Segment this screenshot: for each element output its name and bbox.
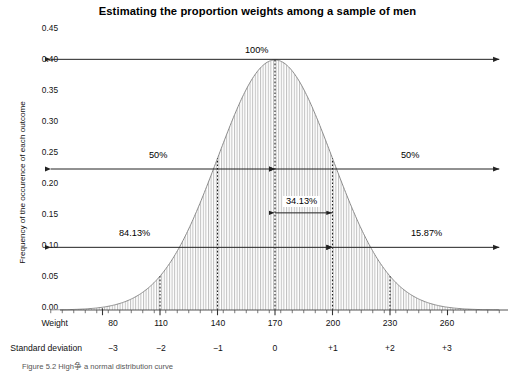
- x-tick-weight: 230: [370, 318, 410, 329]
- x-axis-row-label-weight: Weight: [8, 318, 68, 329]
- x-tick-sd: +1: [313, 343, 353, 354]
- annotation-label-100: 100%: [242, 45, 272, 56]
- annotation-label-8413: 84.13%: [116, 228, 153, 239]
- figure-caption: Figure 5.2 High争 a normal distribution c…: [22, 360, 173, 371]
- x-tick-sd: −1: [198, 343, 238, 354]
- annotation-label-3413: 34.13%: [283, 196, 320, 207]
- x-tick-weight: 170: [255, 318, 295, 329]
- x-tick-sd: −2: [141, 343, 181, 354]
- annotation-label-50-right: 50%: [398, 150, 422, 161]
- x-tick-sd: 0: [255, 343, 295, 354]
- x-tick-weight: 140: [198, 318, 238, 329]
- x-tick-sd: +3: [427, 343, 467, 354]
- x-tick-sd: −3: [93, 343, 133, 354]
- x-tick-weight: 200: [313, 318, 353, 329]
- x-axis-row-label-sd: Standard deviation: [0, 343, 82, 354]
- annotation-label-50-left: 50%: [146, 150, 170, 161]
- x-tick-weight: 110: [141, 318, 181, 329]
- annotation-label-1587: 15.87%: [408, 228, 445, 239]
- x-tick-sd: +2: [370, 343, 410, 354]
- x-tick-weight: 260: [427, 318, 467, 329]
- x-tick-weight: 80: [93, 318, 133, 329]
